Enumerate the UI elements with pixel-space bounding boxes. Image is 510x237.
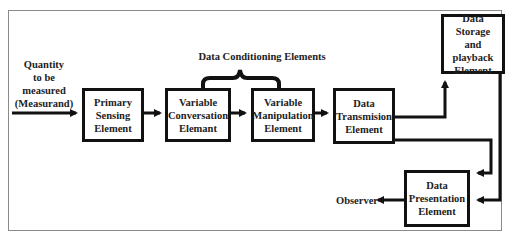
box-variable-conversion-text: Variable Conversation Elemant <box>168 96 228 135</box>
box-variable-manipulation: Variable Manipulation Element <box>251 88 315 142</box>
box-data-transmission: Data Transmision Element <box>333 88 395 144</box>
brace-icon <box>203 70 279 90</box>
box-data-transmission-text: Data Transmision Element <box>336 97 392 136</box>
observer-label: Observer <box>328 194 378 207</box>
box-data-presentation-text: Data Presentation Element <box>409 179 465 218</box>
box-primary-sensing-text: Primary Sensing Element <box>94 96 132 135</box>
box-variable-conversion: Variable Conversation Elemant <box>165 88 231 142</box>
arrow-transmission-to-storage <box>395 82 445 117</box>
box-data-storage-text: Data Storage and playback Element <box>444 12 502 77</box>
measurand-label: Quantity to be measured (Measurand) <box>12 58 76 110</box>
box-variable-manipulation-text: Variable Manipulation Element <box>252 96 313 135</box>
box-data-presentation: Data Presentation Element <box>404 170 470 227</box>
measurand-label-text: Quantity to be measured (Measurand) <box>15 59 73 109</box>
box-primary-sensing: Primary Sensing Element <box>82 88 144 142</box>
arrow-storage-to-presentation <box>478 72 500 200</box>
box-data-storage: Data Storage and playback Element <box>441 14 505 74</box>
arrow-transmission-to-presentation <box>395 140 491 173</box>
group-label: Data Conditioning Elements <box>182 50 342 63</box>
